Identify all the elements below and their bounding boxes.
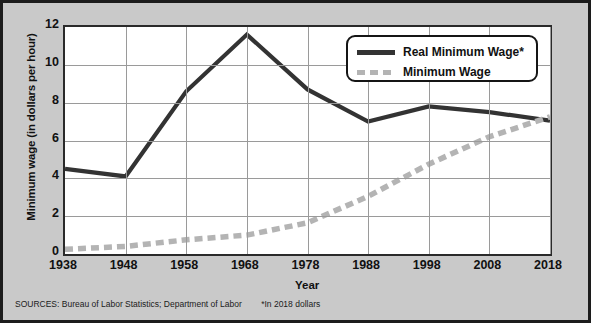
- chart-legend: Real Minimum Wage* Minimum Wage: [346, 35, 538, 82]
- x-tick-label: 1988: [336, 258, 396, 272]
- sources-text: SOURCES: Bureau of Labor Statistics; Dep…: [15, 299, 242, 309]
- x-tick-label: 1958: [154, 258, 214, 272]
- y-tick-label: 8: [23, 93, 59, 107]
- legend-swatch-dashed-line: [357, 70, 395, 75]
- x-tick-label: 1948: [94, 258, 154, 272]
- gridline-vertical: [186, 27, 187, 254]
- gridline-vertical: [247, 27, 248, 254]
- chart-figure: Minimum wage (in dollars per hour) Year …: [0, 0, 591, 323]
- legend-label-real-minimum-wage: Real Minimum Wage*: [403, 45, 524, 59]
- y-tick-label: 2: [23, 206, 59, 220]
- legend-item-minimum-wage: Minimum Wage: [357, 62, 536, 82]
- legend-swatch-solid-line: [357, 50, 395, 55]
- y-tick-label: 4: [23, 168, 59, 182]
- y-tick-label: 12: [23, 17, 59, 31]
- y-axis-tick-labels: 024681012: [17, 3, 59, 323]
- y-tick-label: 10: [23, 55, 59, 69]
- footer-note: SOURCES: Bureau of Labor Statistics; Dep…: [15, 299, 320, 309]
- x-tick-label: 1938: [33, 258, 93, 272]
- x-tick-label: 1978: [276, 258, 336, 272]
- footnote-text: *In 2018 dollars: [261, 299, 320, 309]
- y-tick-label: 6: [23, 131, 59, 145]
- x-tick-label: 2008: [457, 258, 517, 272]
- x-tick-label: 2018: [518, 258, 578, 272]
- legend-item-real-minimum-wage: Real Minimum Wage*: [357, 42, 536, 62]
- y-tick-label: 0: [23, 244, 59, 258]
- gridline-vertical: [550, 27, 551, 254]
- gridline-vertical: [126, 27, 127, 254]
- gridline-vertical: [308, 27, 309, 254]
- legend-label-minimum-wage: Minimum Wage: [403, 65, 491, 79]
- x-axis-title: Year: [295, 279, 319, 291]
- x-tick-label: 1968: [215, 258, 275, 272]
- x-tick-label: 1998: [397, 258, 457, 272]
